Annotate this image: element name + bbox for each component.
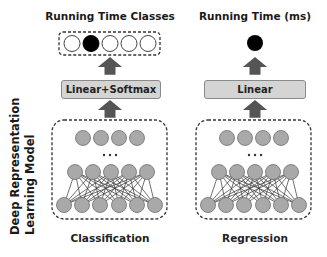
arrow-up-icon [98,57,122,75]
arrow-up-icon [243,100,267,118]
arrow-up-icon [243,57,267,75]
diagram-canvas [0,0,327,257]
classification-network [52,120,167,219]
regression-output-node [247,35,263,51]
class-output-group [59,32,160,55]
regression-network [196,120,311,219]
arrow-up-icon [98,100,122,118]
